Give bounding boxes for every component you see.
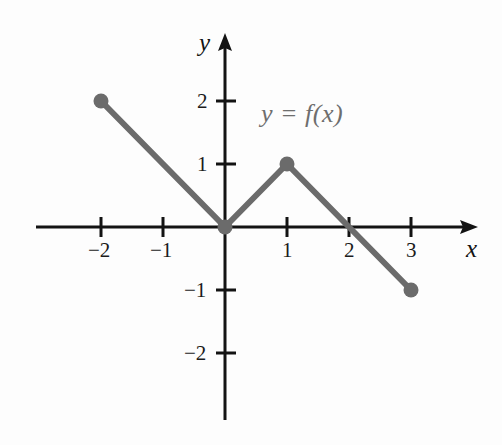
y-tick-label-1: 1 xyxy=(197,154,208,175)
x-tick-label-2: 2 xyxy=(344,240,355,261)
data-point-marker xyxy=(280,157,295,172)
data-point-marker xyxy=(218,220,233,235)
coordinate-plot xyxy=(0,0,502,445)
x-tick-label-neg1: −1 xyxy=(150,240,172,261)
y-tick-label-neg1: −1 xyxy=(184,280,206,301)
x-tick-label-3: 3 xyxy=(406,240,417,261)
x-tick-label-neg2: −2 xyxy=(88,240,110,261)
x-axis-label: x xyxy=(466,236,477,261)
y-tick-label-2: 2 xyxy=(197,91,208,112)
data-point-marker xyxy=(94,94,109,109)
function-label: y = f(x) xyxy=(261,101,343,127)
data-point-marker xyxy=(404,283,419,298)
function-curve xyxy=(101,101,411,290)
y-axis-label: y xyxy=(199,30,210,55)
x-tick-label-1: 1 xyxy=(282,240,293,261)
graph-figure: −2 −1 1 2 3 2 1 −1 −2 y x y = f(x) xyxy=(0,0,502,445)
y-tick-label-neg2: −2 xyxy=(184,343,206,364)
